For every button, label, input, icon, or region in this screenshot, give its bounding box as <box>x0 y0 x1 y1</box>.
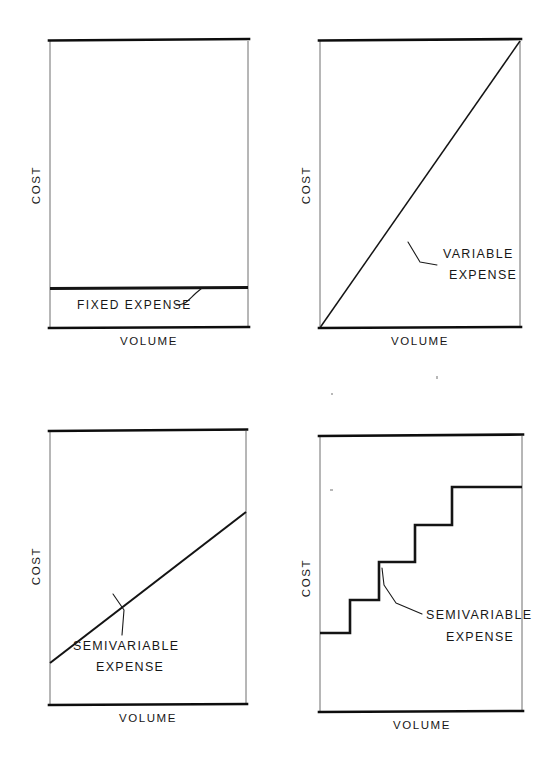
cost-behavior-figure: FIXED EXPENSE COST VOLUME VARIABLE EXPEN… <box>0 0 548 776</box>
scan-speck <box>330 489 333 491</box>
scan-speck <box>331 393 333 395</box>
scan-speck <box>436 376 438 379</box>
scan-artifacts <box>0 0 548 776</box>
